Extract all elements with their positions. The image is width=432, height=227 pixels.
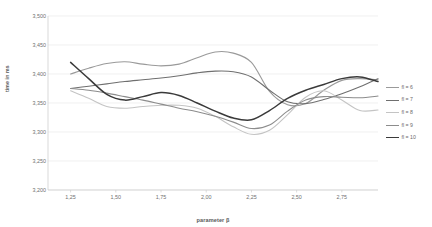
- legend-swatch-line: [386, 112, 399, 113]
- x-tick-label: 1,25: [65, 194, 76, 200]
- x-tick-label: 1,50: [111, 194, 122, 200]
- y-tick-label: 3,300: [33, 129, 47, 135]
- line-chart: 3,5003,4503,4003,3503,3003,2503,200 1,25…: [0, 0, 432, 227]
- series-lines: [71, 52, 378, 135]
- legend-swatch-line: [386, 100, 399, 101]
- x-tick-label: 2,25: [246, 194, 257, 200]
- legend-item[interactable]: fl = 8: [386, 109, 416, 116]
- legend-item[interactable]: fl = 9: [386, 122, 416, 129]
- axis-lines: [48, 16, 378, 193]
- x-tick-label: 2,00: [201, 194, 212, 200]
- legend-item[interactable]: fl = 7: [386, 97, 416, 104]
- x-axis-title-wrap: parameter β: [48, 208, 378, 226]
- legend-swatch-line: [386, 125, 399, 126]
- y-tick-label: 3,350: [33, 100, 47, 106]
- chart-legend: fl = 6fl = 7fl = 8fl = 9fl = 10: [386, 84, 416, 141]
- legend-swatch-line: [386, 87, 399, 88]
- x-tick-label: 2,50: [291, 194, 302, 200]
- legend-item[interactable]: fl = 10: [386, 134, 416, 141]
- legend-label: fl = 10: [402, 135, 416, 140]
- x-axis-ticks: 1,251,501,752,002,252,502,75: [0, 190, 432, 202]
- x-tick-label: 1,75: [156, 194, 167, 200]
- y-tick-label: 3,400: [33, 71, 47, 77]
- legend-swatch-line: [386, 137, 399, 138]
- legend-item[interactable]: fl = 6: [386, 84, 416, 91]
- legend-label: fl = 6: [402, 85, 413, 90]
- legend-label: fl = 8: [402, 110, 413, 115]
- legend-label: fl = 9: [402, 123, 413, 128]
- series-line-fl6: [71, 52, 378, 106]
- x-tick-label: 2,75: [337, 194, 348, 200]
- y-tick-label: 3,450: [33, 42, 47, 48]
- legend-label: fl = 7: [402, 97, 413, 102]
- x-axis-title: parameter β: [196, 217, 229, 223]
- y-axis-title: time in ms: [4, 65, 10, 92]
- y-tick-label: 3,500: [33, 13, 47, 19]
- y-tick-label: 3,250: [33, 158, 47, 164]
